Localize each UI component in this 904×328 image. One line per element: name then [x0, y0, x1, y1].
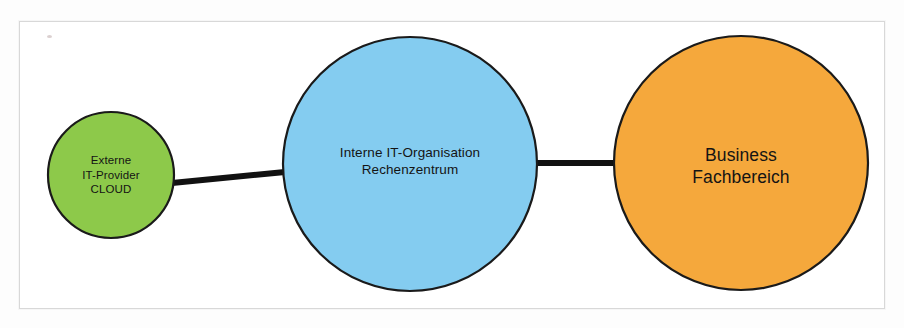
node-label-line: Business: [692, 144, 789, 166]
scan-canvas: Externe IT-Provider CLOUD Interne IT-Org…: [0, 0, 904, 328]
node-label-line: Fachbereich: [692, 166, 789, 188]
edge-external-internal: [172, 172, 285, 183]
node-label-line: Externe: [82, 153, 139, 168]
node-label-internal-it-organisation: Interne IT-Organisation Rechenzentrum: [340, 144, 480, 179]
node-label-line: Rechenzentrum: [340, 161, 480, 178]
node-label-line: IT-Provider: [82, 168, 139, 183]
node-label-business-department: Business Fachbereich: [692, 144, 789, 189]
node-label-external-it-provider: Externe IT-Provider CLOUD: [82, 153, 139, 197]
node-label-line: CLOUD: [82, 182, 139, 197]
node-label-line: Interne IT-Organisation: [340, 144, 480, 161]
